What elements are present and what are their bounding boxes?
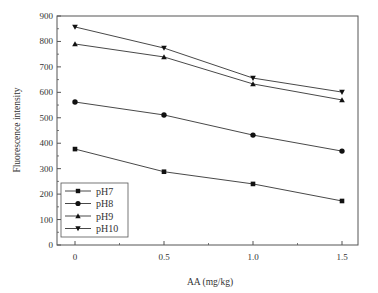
triangle-down-marker: [339, 90, 345, 95]
circle-marker: [75, 201, 80, 206]
triangle-up-marker: [72, 41, 78, 46]
square-marker: [162, 169, 167, 174]
legend-label: pH8: [96, 198, 113, 209]
x-axis: 00.51.01.5: [73, 241, 348, 262]
y-tick-label: 200: [40, 189, 54, 199]
circle-marker: [250, 132, 255, 137]
y-tick-label: 0: [49, 240, 54, 250]
x-tick-label: 1.5: [336, 252, 348, 262]
y-tick-label: 900: [40, 11, 54, 21]
y-tick-label: 300: [40, 164, 54, 174]
circle-marker: [161, 112, 166, 117]
x-axis-title: AA (mg/kg): [187, 277, 233, 288]
circle-marker: [72, 99, 77, 104]
square-marker: [251, 182, 256, 187]
series-ph8: [72, 99, 344, 154]
x-tick-label: 0: [73, 252, 78, 262]
y-tick-label: 800: [40, 36, 54, 46]
legend-label: pH9: [96, 211, 113, 222]
y-tick-label: 100: [40, 215, 54, 225]
legend-label: pH10: [96, 223, 118, 234]
y-axis: 0100200300400500600700800900: [40, 11, 62, 250]
square-marker: [340, 199, 345, 204]
x-tick-label: 0.5: [158, 252, 170, 262]
y-tick-label: 700: [40, 62, 54, 72]
circle-marker: [339, 148, 344, 153]
line-chart: 0100200300400500600700800900 00.51.01.5 …: [0, 0, 378, 293]
series-ph9: [72, 41, 345, 102]
square-marker: [76, 189, 80, 193]
legend: pH7pH8pH9pH10: [61, 183, 128, 237]
series-ph10: [72, 25, 345, 95]
y-tick-label: 600: [40, 87, 54, 97]
y-tick-label: 400: [40, 138, 54, 148]
y-tick-label: 500: [40, 113, 54, 123]
square-marker: [73, 147, 78, 152]
x-tick-label: 1.0: [247, 252, 259, 262]
data-series: [72, 25, 345, 204]
legend-label: pH7: [96, 186, 113, 197]
y-axis-title: Fluorescence intensity: [12, 87, 22, 172]
